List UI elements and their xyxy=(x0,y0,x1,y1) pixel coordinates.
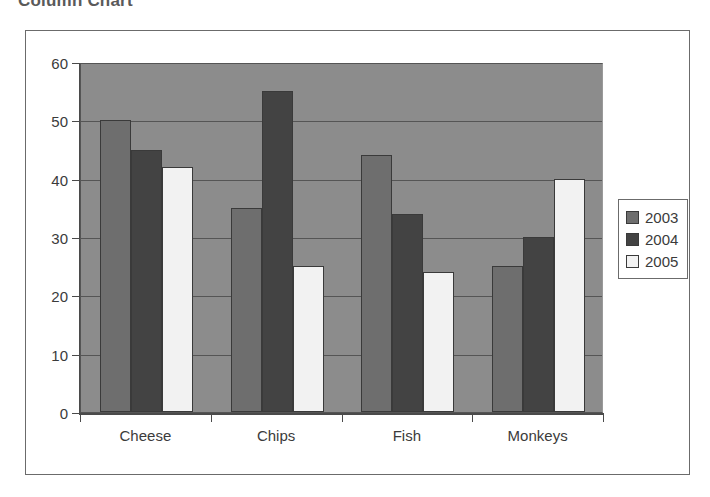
y-axis-tick xyxy=(72,63,80,64)
bar-chips-2004 xyxy=(262,91,293,412)
y-axis-label: 10 xyxy=(28,348,68,363)
y-axis-label: 20 xyxy=(28,289,68,304)
chart-legend: 200320042005 xyxy=(618,199,688,279)
y-axis-tick xyxy=(72,355,80,356)
bar-fish-2004 xyxy=(392,214,423,412)
legend-label: 2004 xyxy=(645,232,678,247)
x-axis-tick xyxy=(211,413,212,422)
y-axis-tick xyxy=(72,121,80,122)
bar-chips-2005 xyxy=(293,266,324,412)
x-axis-tick xyxy=(472,413,473,422)
legend-label: 2005 xyxy=(645,254,678,269)
legend-swatch-icon xyxy=(626,255,639,268)
x-axis-label-chips: Chips xyxy=(257,427,295,444)
y-axis-tick xyxy=(72,180,80,181)
y-axis-label: 40 xyxy=(28,173,68,188)
page-title: Column Chart xyxy=(18,0,133,11)
bar-monkeys-2005 xyxy=(554,179,585,412)
y-axis-label: 30 xyxy=(28,231,68,246)
x-axis-tick xyxy=(80,413,81,422)
bar-chips-2003 xyxy=(231,208,262,412)
x-axis-tick xyxy=(603,413,604,422)
y-axis-tick xyxy=(72,238,80,239)
bar-fish-2003 xyxy=(361,155,392,412)
legend-swatch-icon xyxy=(626,233,639,246)
x-axis-label-monkeys: Monkeys xyxy=(508,427,568,444)
legend-item-2004[interactable]: 2004 xyxy=(626,228,678,250)
y-axis-tick xyxy=(72,296,80,297)
y-axis-label: 0 xyxy=(28,406,68,421)
chart-frame: 0102030405060 CheeseChipsFishMonkeys 200… xyxy=(25,30,690,475)
x-axis-tick xyxy=(342,413,343,422)
bar-monkeys-2003 xyxy=(492,266,523,412)
legend-item-2005[interactable]: 2005 xyxy=(626,250,678,272)
y-axis-label: 50 xyxy=(28,114,68,129)
bar-cheese-2004 xyxy=(131,150,162,413)
bar-cheese-2005 xyxy=(162,167,193,412)
y-axis-label: 60 xyxy=(28,56,68,71)
x-axis-label-fish: Fish xyxy=(393,427,421,444)
plot-area xyxy=(80,63,603,413)
legend-item-2003[interactable]: 2003 xyxy=(626,206,678,228)
bar-monkeys-2004 xyxy=(523,237,554,412)
legend-label: 2003 xyxy=(645,210,678,225)
x-axis-label-cheese: Cheese xyxy=(120,427,172,444)
bar-fish-2005 xyxy=(423,272,454,412)
legend-swatch-icon xyxy=(626,211,639,224)
gridline xyxy=(81,121,602,122)
bar-cheese-2003 xyxy=(100,120,131,412)
